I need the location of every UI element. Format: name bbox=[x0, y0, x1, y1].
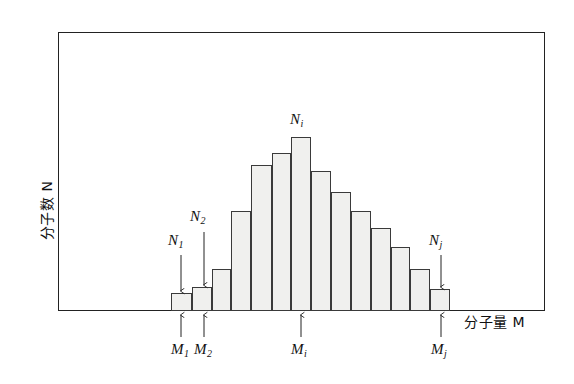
label-n1-base: N bbox=[168, 232, 178, 248]
label-n1-sub: 1 bbox=[179, 239, 184, 250]
bar-4 bbox=[231, 211, 251, 311]
bar-6 bbox=[272, 153, 291, 311]
bar-5 bbox=[251, 165, 272, 311]
label-nj-base: N bbox=[429, 232, 439, 248]
bar-1 bbox=[171, 293, 192, 311]
label-mi-sub: i bbox=[304, 348, 307, 359]
x-axis-label: 分子量 M bbox=[464, 311, 525, 331]
label-mj-sub: j bbox=[444, 348, 447, 359]
label-m1-base: M bbox=[171, 341, 184, 357]
label-m2-base: M bbox=[194, 341, 207, 357]
label-m1: M1 bbox=[171, 341, 189, 358]
label-n2-base: N bbox=[190, 208, 200, 224]
label-ni-base: N bbox=[290, 111, 300, 127]
label-m2: M2 bbox=[194, 341, 212, 358]
label-nj-sub: j bbox=[440, 239, 443, 250]
label-ni-sub: i bbox=[301, 118, 304, 129]
bar-7 bbox=[291, 137, 311, 311]
bar-14 bbox=[430, 289, 450, 311]
label-n1: N1 bbox=[168, 232, 183, 249]
label-n2-sub: 2 bbox=[201, 215, 206, 226]
bar-2 bbox=[192, 287, 212, 311]
label-m2-sub: 2 bbox=[207, 348, 212, 359]
label-n2: N2 bbox=[190, 208, 205, 225]
label-nj: Nj bbox=[429, 232, 442, 249]
y-axis-label: 分子数 N bbox=[36, 181, 56, 240]
label-m1-sub: 1 bbox=[184, 348, 189, 359]
label-mj-base: M bbox=[431, 341, 444, 357]
bar-10 bbox=[351, 211, 371, 311]
bar-13 bbox=[410, 269, 430, 311]
bar-3 bbox=[212, 269, 231, 311]
label-mi: Mi bbox=[291, 341, 306, 358]
label-mi-base: M bbox=[291, 341, 304, 357]
bar-12 bbox=[391, 247, 410, 311]
bar-8 bbox=[311, 171, 331, 311]
bar-9 bbox=[331, 192, 351, 311]
bar-11 bbox=[371, 228, 391, 311]
molecular-weight-distribution-figure: 分子数 N 分子量 M N1 N2 Ni bbox=[0, 0, 574, 384]
label-mj: Mj bbox=[431, 341, 446, 358]
label-ni: Ni bbox=[290, 111, 303, 128]
